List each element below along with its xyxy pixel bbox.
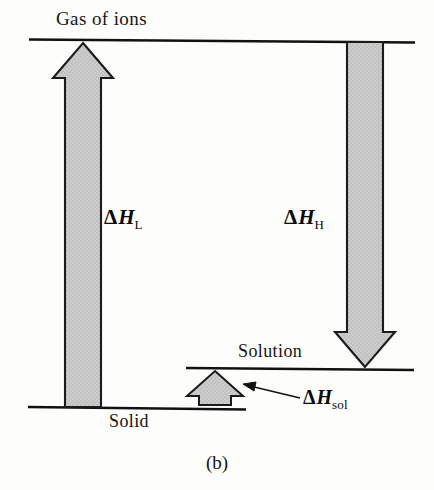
subscript-solution: sol — [332, 397, 348, 412]
arrow-hydration-enthalpy-down — [335, 42, 395, 367]
figure-caption: (b) — [0, 452, 434, 474]
enthalpy-level-diagram: Gas of ions Solution Solid ΔHL ΔHH ΔHsol… — [0, 0, 434, 490]
label-delta-h-lattice: ΔHL — [104, 205, 143, 233]
label-delta-h-hydration: ΔHH — [284, 205, 324, 233]
level-label-solution: Solution — [238, 341, 302, 362]
level-line-solid — [28, 407, 246, 410]
delta-symbol: Δ — [303, 386, 316, 408]
annotation-leader-arrowhead-icon — [243, 382, 256, 391]
level-label-solid: Solid — [109, 411, 149, 432]
delta-symbol: Δ — [104, 205, 117, 229]
enthalpy-symbol: H — [297, 205, 314, 229]
delta-symbol: Δ — [284, 205, 297, 229]
label-delta-h-solution: ΔHsol — [303, 386, 348, 413]
diagram-vector-layer — [0, 0, 434, 490]
enthalpy-symbol: H — [117, 205, 134, 229]
level-label-gas-of-ions: Gas of ions — [56, 8, 147, 30]
arrow-solution-enthalpy-up — [187, 371, 243, 405]
enthalpy-symbol: H — [316, 386, 333, 408]
subscript-lattice: L — [135, 217, 143, 232]
annotation-leader-line — [250, 386, 300, 398]
subscript-hydration: H — [315, 217, 325, 232]
level-line-solution — [186, 368, 414, 370]
